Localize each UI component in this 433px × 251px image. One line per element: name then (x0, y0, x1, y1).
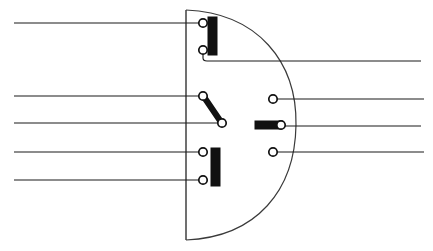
figure-root (0, 0, 433, 251)
node-right-top[interactable] (269, 95, 277, 103)
node-upper-a[interactable] (199, 19, 207, 27)
switch-blade-middle-diagonal[interactable] (204, 97, 221, 122)
left-conductor-group (14, 23, 222, 180)
node-middle-a[interactable] (199, 92, 207, 100)
jumper-top-elbow (203, 50, 421, 61)
switch-blade-lower[interactable] (211, 148, 220, 186)
switch-blade-upper[interactable] (208, 17, 217, 55)
node-lower-a[interactable] (199, 148, 207, 156)
node-right-bottom[interactable] (269, 148, 277, 156)
node-upper-b[interactable] (199, 46, 207, 54)
node-middle-b[interactable] (218, 119, 226, 127)
node-lower-b[interactable] (199, 176, 207, 184)
node-right-middle[interactable] (277, 121, 285, 129)
schematic-canvas (0, 0, 433, 251)
